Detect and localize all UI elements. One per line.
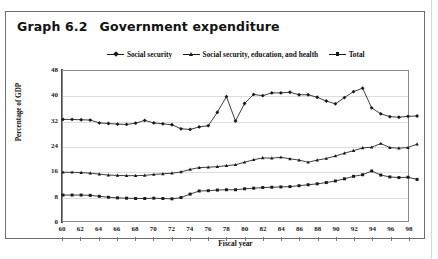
data-point-marker xyxy=(370,170,373,173)
x-tick-label: 68 xyxy=(126,225,144,233)
series-line xyxy=(63,88,417,129)
data-point-marker xyxy=(143,197,146,200)
data-point-marker xyxy=(161,197,164,200)
data-point-marker xyxy=(270,186,273,189)
x-tick-label: 60 xyxy=(53,225,71,233)
data-point-marker xyxy=(234,188,237,191)
data-point-marker xyxy=(116,196,119,199)
data-point-marker xyxy=(279,91,283,95)
data-point-marker xyxy=(71,194,74,197)
chart-plot-wrapper: Percentage of GDP 081624324048 606264666… xyxy=(0,0,438,259)
y-tick-label: 8 xyxy=(32,193,58,201)
series-layer xyxy=(63,71,408,221)
x-tick-label: 74 xyxy=(181,225,199,233)
y-axis-tick-labels: 081624324048 xyxy=(28,70,58,222)
x-tick-label: 90 xyxy=(327,225,345,233)
data-point-marker xyxy=(406,114,410,118)
x-tick-label: 64 xyxy=(90,225,108,233)
data-point-marker xyxy=(343,177,346,180)
data-point-marker xyxy=(89,194,92,197)
data-point-marker xyxy=(252,187,255,190)
data-point-marker xyxy=(379,142,382,145)
x-tick-label: 78 xyxy=(217,225,235,233)
y-tick-label: 32 xyxy=(32,117,58,125)
x-tick-label: 76 xyxy=(199,225,217,233)
data-point-marker xyxy=(261,186,264,189)
data-point-marker xyxy=(189,193,192,196)
data-point-marker xyxy=(316,182,319,185)
x-tick-label: 98 xyxy=(400,225,418,233)
data-point-marker xyxy=(216,189,219,192)
x-tick-label: 72 xyxy=(163,225,181,233)
x-axis-tick-labels: 6062646668707274767880828486889092949698 xyxy=(62,225,409,237)
data-point-marker xyxy=(234,119,238,123)
data-point-marker xyxy=(80,194,83,197)
data-point-marker xyxy=(70,118,74,122)
data-point-marker xyxy=(324,99,328,103)
data-point-marker xyxy=(279,185,282,188)
data-point-marker xyxy=(62,194,65,197)
data-point-marker xyxy=(307,183,310,186)
data-point-marker xyxy=(170,123,174,127)
x-tick-label: 92 xyxy=(345,225,363,233)
data-point-marker xyxy=(361,173,364,176)
data-point-marker xyxy=(334,180,337,183)
data-point-marker xyxy=(180,196,183,199)
plot-area xyxy=(62,70,409,222)
data-point-marker xyxy=(388,115,392,119)
data-point-marker xyxy=(152,197,155,200)
series-3 xyxy=(61,86,419,131)
y-axis-title: Percentage of GDP xyxy=(15,69,23,155)
x-tick-label: 80 xyxy=(236,225,254,233)
series-1 xyxy=(62,170,419,201)
data-point-marker xyxy=(152,121,156,125)
data-point-marker xyxy=(352,175,355,178)
page-canvas: Graph 6.2Government expenditure Social s… xyxy=(0,0,438,259)
data-point-marker xyxy=(61,118,65,122)
data-point-marker xyxy=(270,91,274,95)
y-tick-label: 16 xyxy=(32,167,58,175)
data-point-marker xyxy=(134,121,138,125)
data-point-marker xyxy=(97,121,101,125)
data-point-marker xyxy=(315,95,319,99)
data-point-marker xyxy=(125,123,129,127)
data-point-marker xyxy=(397,115,401,119)
data-point-marker xyxy=(225,188,228,191)
data-point-marker xyxy=(416,178,419,181)
data-point-marker xyxy=(198,190,201,193)
data-point-marker xyxy=(125,197,128,200)
data-point-marker xyxy=(388,175,391,178)
x-tick-label: 94 xyxy=(363,225,381,233)
data-point-marker xyxy=(161,122,165,126)
data-point-marker xyxy=(107,196,110,199)
data-point-marker xyxy=(243,187,246,190)
y-tick-label: 48 xyxy=(32,66,58,74)
data-point-marker xyxy=(288,90,292,94)
x-tick-label: 70 xyxy=(144,225,162,233)
x-tick-label: 96 xyxy=(382,225,400,233)
data-point-marker xyxy=(415,114,419,118)
data-point-marker xyxy=(197,125,201,129)
x-tick-label: 82 xyxy=(254,225,272,233)
y-tick-label: 40 xyxy=(32,91,58,99)
data-point-marker xyxy=(224,95,228,99)
data-point-marker xyxy=(207,189,210,192)
data-point-marker xyxy=(106,122,110,126)
x-axis-title: Fiscal year xyxy=(62,239,409,248)
data-point-marker xyxy=(79,118,83,122)
series-2 xyxy=(61,142,419,177)
data-point-marker xyxy=(261,94,265,98)
data-point-marker xyxy=(288,185,291,188)
data-point-marker xyxy=(306,93,310,97)
data-point-marker xyxy=(188,128,192,132)
data-point-marker xyxy=(88,118,92,122)
x-tick-label: 84 xyxy=(272,225,290,233)
data-point-marker xyxy=(116,122,120,126)
x-tick-label: 86 xyxy=(290,225,308,233)
data-point-marker xyxy=(415,142,418,145)
x-tick-label: 62 xyxy=(71,225,89,233)
x-tick-label: 88 xyxy=(309,225,327,233)
series-line xyxy=(63,144,417,176)
data-point-marker xyxy=(170,197,173,200)
data-point-marker xyxy=(143,118,147,122)
